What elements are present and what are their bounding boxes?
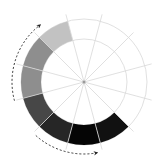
spoke-line <box>84 14 102 82</box>
segment-mid-gray-2 <box>21 66 42 99</box>
segment-near-black <box>95 112 128 142</box>
segment-wheel-diagram <box>0 0 165 165</box>
spoke-line <box>84 64 152 82</box>
spoke-line <box>84 82 152 100</box>
spoke-line <box>66 14 84 82</box>
segment-black <box>68 124 101 145</box>
center-dot <box>83 81 86 84</box>
